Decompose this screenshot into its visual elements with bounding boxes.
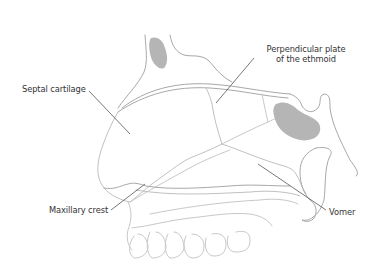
pterygoid-plate [300,147,331,221]
frontal-sinus [149,37,167,68]
maxilla-lower [132,213,272,228]
frontal-bone-outline [118,35,146,108]
ethmoid-posterior-border [262,94,268,122]
label-maxillary-crest: Maxillary crest [49,205,108,215]
leader-vomer [258,164,326,210]
frontal-bone-outline-right [170,35,232,82]
nasal-bone-ridge-lower [118,88,288,112]
label-perpendicular-plate-line1: Perpendicular plate [246,44,366,54]
label-vomer: Vomer [329,207,355,217]
label-perpendicular-plate-line2: of the ethmoid [246,54,366,64]
label-perpendicular-plate: Perpendicular plate of the ethmoid [246,44,366,64]
label-septal-cartilage: Septal cartilage [22,84,86,94]
teeth [130,231,251,258]
maxillary-crest-line [104,183,290,188]
maxilla-front [127,202,132,250]
hard-palate-top [136,190,300,196]
nasal-septum-diagram [0,0,386,278]
vomer-outline [222,144,306,194]
sphenoid-sinus [273,102,320,140]
hard-palate-bottom [150,199,298,214]
leader-perpendicular-plate [216,58,254,103]
